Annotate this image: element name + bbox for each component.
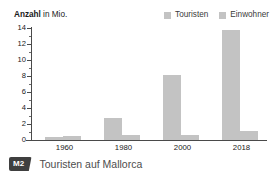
y-axis-line	[31, 27, 32, 141]
caption-badge: M2	[9, 157, 32, 171]
legend-swatch-einwohner	[219, 12, 226, 19]
y-tick-minor	[29, 68, 32, 69]
y-tick-major	[27, 60, 31, 61]
legend-label-einwohner: Einwohner	[230, 9, 269, 21]
y-tick-minor	[29, 84, 32, 85]
bar-touristen-1960	[45, 137, 63, 140]
bar-group-bars	[222, 27, 262, 140]
y-tick-minor	[29, 116, 32, 117]
y-tick-major	[27, 108, 31, 109]
y-axis-title: Anzahl in Mio.	[14, 9, 67, 21]
bar-touristen-1980	[104, 118, 122, 140]
bar-einwohner-1960	[63, 136, 81, 140]
y-tick-minor	[29, 100, 32, 101]
x-tick-label: 2018	[222, 144, 262, 152]
y-tick-label: 12	[18, 40, 26, 48]
bar-einwohner-1980	[122, 135, 140, 140]
chart-legend: Touristen Einwohner	[164, 9, 269, 21]
bar-touristen-2018	[222, 30, 240, 140]
x-tick-label: 2000	[163, 144, 203, 152]
y-tick-label: 8	[22, 72, 26, 80]
bar-group: 1980	[104, 27, 144, 140]
y-axis-title-rest: in Mio.	[41, 10, 67, 19]
y-tick-label: 14	[18, 24, 26, 32]
x-tick-label: 1980	[104, 144, 144, 152]
chart-figure: Anzahl in Mio. Touristen Einwohner 02468…	[0, 0, 272, 180]
legend-swatch-touristen	[164, 12, 171, 19]
y-tick-major	[27, 140, 31, 141]
y-tick-major	[27, 76, 31, 77]
bar-group-bars	[163, 27, 203, 140]
plot-area: 02468101214 1960198020002018	[31, 27, 267, 141]
y-tick-major	[27, 124, 31, 125]
y-tick-minor	[29, 36, 32, 37]
y-tick-major	[27, 28, 31, 29]
bar-group: 2000	[163, 27, 203, 140]
bar-einwohner-2000	[181, 135, 199, 140]
figure-caption: M2 Touristen auf Mallorca	[9, 157, 142, 171]
y-tick-label: 6	[22, 88, 26, 96]
bar-group: 1960	[45, 27, 85, 140]
bar-touristen-2000	[163, 75, 181, 140]
chart-header: Anzahl in Mio. Touristen Einwohner	[0, 9, 272, 23]
bar-group-bars	[104, 27, 144, 140]
bar-einwohner-2018	[240, 131, 258, 140]
y-tick-label: 2	[22, 120, 26, 128]
y-tick-major	[27, 92, 31, 93]
y-tick-major	[27, 44, 31, 45]
y-tick-minor	[29, 52, 32, 53]
legend-item-touristen: Touristen	[164, 9, 208, 21]
bar-group: 2018	[222, 27, 262, 140]
x-axis-line	[26, 140, 267, 141]
legend-item-einwohner: Einwohner	[219, 9, 269, 21]
y-tick-label: 10	[18, 56, 26, 64]
y-tick-label: 0	[22, 136, 26, 144]
y-tick-minor	[29, 132, 32, 133]
x-tick-label: 1960	[45, 144, 85, 152]
y-tick-label: 4	[22, 104, 26, 112]
y-axis-title-strong: Anzahl	[14, 10, 41, 19]
bar-group-bars	[45, 27, 85, 140]
legend-label-touristen: Touristen	[175, 9, 208, 21]
caption-text: Touristen auf Mallorca	[40, 159, 143, 170]
